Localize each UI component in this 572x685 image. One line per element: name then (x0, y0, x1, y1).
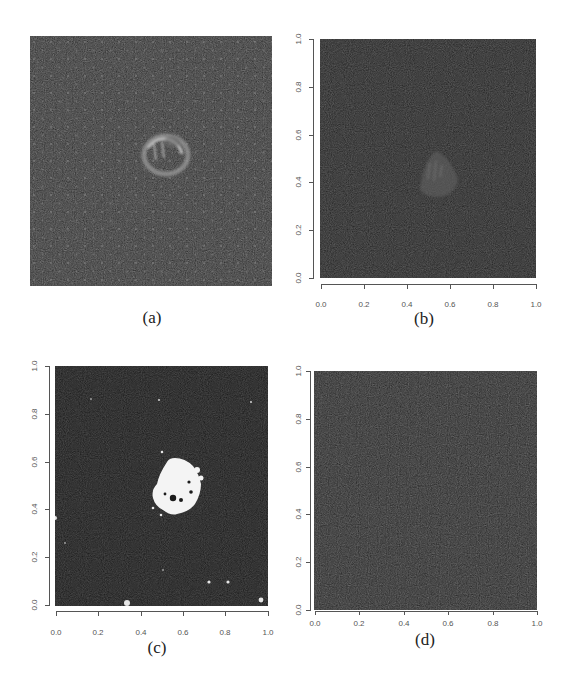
panel-b-xtick-label: 0.8 (487, 300, 498, 309)
panel-b-y-axis (313, 39, 314, 278)
panel-b-ytick-label: 0.4 (294, 176, 303, 187)
panel-b-image (320, 39, 536, 278)
panel-c-xtick (183, 611, 184, 616)
panel-d-xtick-label: 0.8 (487, 619, 498, 628)
panel-c-xtick (98, 611, 99, 616)
panel-b-ytick (309, 135, 314, 136)
panel-c-xtick-label: 0.6 (177, 628, 188, 637)
panel-d-xtick (537, 611, 538, 615)
panel-c-ytick (45, 605, 50, 606)
panel-d-xtick-label: 0.0 (309, 619, 320, 628)
panel-d-xtick (448, 611, 449, 615)
panel-c-ytick-label: 0.2 (30, 551, 39, 562)
panel-d-ytick-label: 0.2 (294, 556, 303, 567)
panel-d-ytick (306, 514, 311, 515)
panel-c-ytick (45, 462, 50, 463)
panel-b-noise-image (320, 39, 536, 278)
panel-c-threshold-image (55, 366, 268, 606)
panel-b-ytick (309, 230, 314, 231)
panel-b-xtick-label: 0.2 (358, 300, 369, 309)
panel-b-xtick (407, 284, 408, 289)
panel-c-xtick-label: 0.0 (50, 628, 61, 637)
panel-c-xtick (268, 611, 269, 616)
panel-c-ytick-label: 1.0 (30, 360, 39, 371)
panel-d-xtick-label: 0.6 (442, 619, 453, 628)
panel-a-image (30, 36, 272, 286)
panel-c-ytick-label: 0.8 (30, 408, 39, 419)
panel-c-image (55, 366, 268, 606)
panel-b-xtick-label: 0.4 (401, 300, 412, 309)
panel-d-residual-image (314, 371, 537, 610)
panel-c-ytick-label: 0.0 (30, 599, 39, 610)
panel-b-xtick-label: 1.0 (530, 300, 541, 309)
panel-c-y-axis (49, 366, 50, 606)
panel-d-xtick (493, 611, 494, 615)
panel-b-ytick (309, 87, 314, 88)
panel-b-ytick-label: 1.0 (294, 33, 303, 44)
panel-c-xtick-label: 0.8 (219, 628, 230, 637)
panel-b-caption: (b) (414, 309, 434, 329)
panel-c-ytick (45, 509, 50, 510)
panel-b-ytick (309, 39, 314, 40)
panel-d-xtick (315, 611, 316, 615)
panel-d-xtick (359, 611, 360, 615)
panel-d-x-axis (315, 611, 537, 612)
panel-d-xtick-label: 0.2 (353, 619, 364, 628)
panel-d-image (314, 371, 537, 610)
panel-c-xtick-label: 1.0 (262, 628, 273, 637)
panel-b-ytick-label: 0.2 (294, 224, 303, 235)
panel-c-xtick (141, 611, 142, 616)
panel-d-caption: (d) (415, 630, 435, 650)
panel-d-xtick (404, 611, 405, 615)
panel-b-ytick-label: 0.0 (294, 272, 303, 283)
panel-a-noise-image (30, 36, 272, 286)
panel-c-ytick (45, 414, 50, 415)
panel-d-ytick (306, 610, 311, 611)
panel-c-xtick (56, 611, 57, 616)
panel-b-xtick (321, 284, 322, 289)
panel-c-ytick (45, 557, 50, 558)
panel-c-xtick (225, 611, 226, 616)
panel-c-xtick-label: 0.4 (135, 628, 146, 637)
panel-b-xtick-label: 0.6 (444, 300, 455, 309)
panel-c-xtick-label: 0.2 (92, 628, 103, 637)
panel-b-x-axis (321, 284, 537, 285)
panel-b-ytick-label: 0.6 (294, 129, 303, 140)
panel-d-ytick-label: 0.4 (294, 508, 303, 519)
panel-c-caption: (c) (148, 638, 167, 658)
panel-b-xtick (493, 284, 494, 289)
panel-b-xtick (364, 284, 365, 289)
panel-d-ytick (306, 562, 311, 563)
panel-d-ytick (306, 419, 311, 420)
panel-d-xtick-label: 0.4 (398, 619, 409, 628)
panel-c-x-axis (56, 611, 268, 612)
panel-d-ytick (306, 371, 311, 372)
panel-b-xtick-label: 0.0 (315, 300, 326, 309)
panel-d-ytick-label: 1.0 (294, 365, 303, 376)
panel-d-y-axis (310, 371, 311, 610)
panel-d-xtick-label: 1.0 (531, 619, 542, 628)
panel-a-caption: (a) (143, 308, 162, 328)
panel-b-ytick (309, 182, 314, 183)
panel-b-xtick (450, 284, 451, 289)
panel-b-ytick (309, 278, 314, 279)
panel-c-ytick-label: 0.6 (30, 456, 39, 467)
panel-c-ytick (45, 366, 50, 367)
panel-b-ytick-label: 0.8 (294, 81, 303, 92)
panel-d-ytick-label: 0.8 (294, 413, 303, 424)
panel-d-ytick (306, 467, 311, 468)
panel-b-xtick (536, 284, 537, 289)
panel-d-ytick-label: 0.6 (294, 461, 303, 472)
panel-c-ytick-label: 0.4 (30, 503, 39, 514)
panel-d-ytick-label: 0.0 (294, 604, 303, 615)
